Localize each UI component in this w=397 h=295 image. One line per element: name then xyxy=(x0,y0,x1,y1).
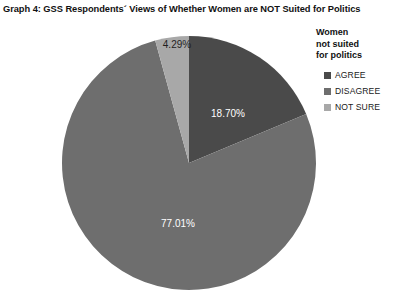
legend-title: Women not suited for politics xyxy=(316,27,396,62)
pie-svg: 18.70%77.01%4.29% xyxy=(60,34,318,292)
legend-swatch-not-sure xyxy=(324,104,331,111)
legend-swatch-agree xyxy=(324,72,331,79)
legend-item-disagree[interactable]: DISAGREE xyxy=(316,84,396,99)
pie-plot-area: 18.70%77.01%4.29% xyxy=(60,34,318,292)
pie-slices-group xyxy=(62,36,316,290)
legend-label-agree: AGREE xyxy=(335,70,366,80)
legend-swatch-disagree xyxy=(324,88,331,95)
slice-value-label-agree: 18.70% xyxy=(211,108,245,119)
chart-title: Graph 4: GSS Respondents´ Views of Wheth… xyxy=(3,3,395,15)
legend-item-agree[interactable]: AGREE xyxy=(316,68,396,83)
legend-label-disagree: DISAGREE xyxy=(335,86,380,96)
chart-legend: Women not suited for politics AGREEDISAG… xyxy=(316,27,396,116)
legend-item-not-sure[interactable]: NOT SURE xyxy=(316,100,396,115)
slice-value-label-not-sure: 4.29% xyxy=(163,39,191,50)
legend-items-list: AGREEDISAGREENOT SURE xyxy=(316,68,396,115)
pie-chart-figure: Graph 4: GSS Respondents´ Views of Wheth… xyxy=(0,0,397,295)
legend-label-not-sure: NOT SURE xyxy=(335,102,380,112)
slice-value-label-disagree: 77.01% xyxy=(161,218,195,229)
